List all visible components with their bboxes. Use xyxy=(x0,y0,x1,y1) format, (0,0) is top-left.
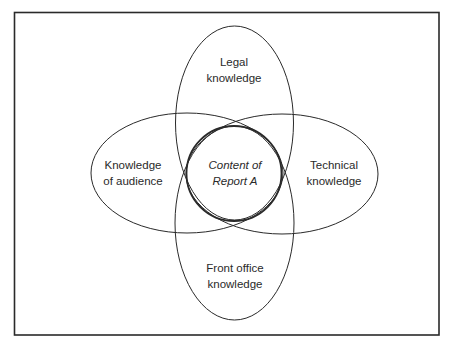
legal-label-line1: Legal xyxy=(220,56,248,68)
audience-label-line1: Knowledge xyxy=(105,159,162,171)
front-office-label-line2: knowledge xyxy=(208,278,263,290)
report-content-circle xyxy=(187,126,282,221)
audience-label-line2: of audience xyxy=(103,175,162,187)
technical-label-line1: Technical xyxy=(310,159,358,171)
legal-label-line2: knowledge xyxy=(207,72,262,84)
front-office-knowledge-ellipse xyxy=(175,126,294,320)
front-office-label-line1: Front office xyxy=(206,262,263,274)
center-label-line1: Content of xyxy=(208,159,263,171)
technical-label-line2: knowledge xyxy=(307,175,362,187)
venn-diagram: Legal knowledge Knowledge of audience Te… xyxy=(0,0,451,348)
center-label-line2: Report A xyxy=(213,175,258,187)
